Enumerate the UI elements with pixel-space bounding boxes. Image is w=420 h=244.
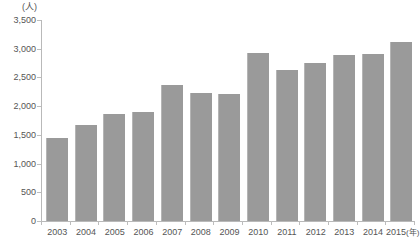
x-axis-label: 2008: [185, 227, 217, 237]
y-axis-tick-label: 1,000: [13, 159, 36, 168]
x-axis-tick-mark: [385, 221, 386, 225]
x-axis-tick-mark: [242, 221, 243, 225]
x-axis-label: 2003: [41, 227, 73, 237]
x-axis-label: 2013: [328, 227, 360, 237]
x-axis-unit-label: (年): [406, 228, 419, 237]
x-axis-tick-mark: [328, 221, 329, 225]
x-axis-label: 2012: [300, 227, 332, 237]
x-axis-tick-mark: [299, 221, 300, 225]
bar: [75, 125, 97, 221]
bar: [362, 54, 384, 221]
x-axis-label: 2011: [271, 227, 303, 237]
bar: [190, 93, 212, 221]
bar: [103, 114, 125, 221]
x-axis-tick-mark: [213, 221, 214, 225]
bar-series: [41, 20, 415, 221]
x-axis-tick-mark: [70, 221, 71, 225]
x-axis-tick-mark: [414, 221, 415, 225]
x-axis-label: 2009: [214, 227, 246, 237]
bar: [390, 42, 412, 221]
x-axis-tick-mark: [357, 221, 358, 225]
y-axis-tick-label: 2,000: [13, 102, 36, 111]
bar: [276, 70, 298, 221]
bar-chart: (人) 05001,0001,5002,0002,5003,0003,500 2…: [0, 0, 420, 244]
x-axis-label: 2007: [156, 227, 188, 237]
x-axis-tick-mark: [41, 221, 42, 225]
x-axis-label: 2006: [127, 227, 159, 237]
bar: [218, 94, 240, 221]
bar: [132, 112, 154, 221]
bar: [304, 63, 326, 222]
x-axis-tick-mark: [185, 221, 186, 225]
y-axis-tick-label: 3,000: [13, 44, 36, 53]
y-axis-tick-label: 2,500: [13, 73, 36, 82]
plot-area: 05001,0001,5002,0002,5003,0003,500: [41, 20, 415, 221]
x-axis-label: 2015(年): [380, 227, 420, 238]
x-axis-tick-mark: [127, 221, 128, 225]
y-axis-unit-label: (人): [22, 2, 37, 12]
bar: [247, 53, 269, 221]
x-axis-label: 2004: [70, 227, 102, 237]
y-axis-tick-label: 0: [31, 217, 36, 226]
x-axis-tick-mark: [156, 221, 157, 225]
x-axis-label: 2010: [242, 227, 274, 237]
bar: [46, 138, 68, 221]
y-axis-tick-label: 500: [21, 188, 36, 197]
x-axis-tick-mark: [98, 221, 99, 225]
x-axis-line: [41, 221, 415, 222]
y-axis-tick-label: 3,500: [13, 16, 36, 25]
bar: [333, 55, 355, 221]
bar: [161, 85, 183, 221]
y-axis-tick-label: 1,500: [13, 130, 36, 139]
x-axis-tick-mark: [271, 221, 272, 225]
x-axis-label: 2005: [99, 227, 131, 237]
